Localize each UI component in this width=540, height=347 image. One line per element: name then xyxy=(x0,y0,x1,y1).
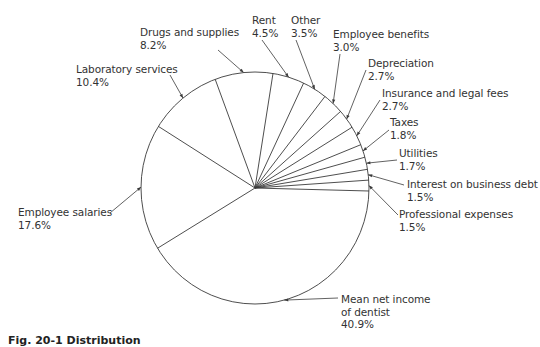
arrowhead-icon xyxy=(180,94,183,98)
leader-line xyxy=(369,186,398,215)
pie-slices xyxy=(141,72,369,304)
label-value: 1.5% xyxy=(407,191,538,204)
arrowhead-icon xyxy=(284,298,288,301)
label-interest-on-business-debt: Interest on business debt 1.5% xyxy=(407,178,538,203)
leader-line xyxy=(363,130,389,151)
label-name: Drugs and supplies xyxy=(140,26,239,39)
slice-divider xyxy=(255,188,369,191)
label-value: 1.7% xyxy=(399,160,438,173)
label-value: 4.5% xyxy=(252,27,278,40)
label-value: 1.5% xyxy=(399,221,513,234)
slice-divider xyxy=(158,188,255,248)
slice-divider xyxy=(255,111,341,188)
label-other: Other 3.5% xyxy=(291,14,320,39)
label-value: 17.6% xyxy=(18,219,112,232)
leader-line xyxy=(366,160,397,163)
label-name: Laboratory services xyxy=(76,63,178,76)
label-value: 2.7% xyxy=(368,70,434,83)
label-utilities: Utilities 1.7% xyxy=(399,147,438,172)
label-name: Depreciation xyxy=(368,57,434,70)
label-mean-net-income: Mean net income of dentist 40.9% xyxy=(341,293,430,331)
label-rent: Rent 4.5% xyxy=(252,14,278,39)
figure-caption: Fig. 20-1 Distribution xyxy=(8,334,141,347)
leader-line xyxy=(110,187,141,213)
label-value: 1.8% xyxy=(390,129,418,142)
label-value: 3.5% xyxy=(291,27,320,40)
label-depreciation: Depreciation 2.7% xyxy=(368,57,434,82)
label-name: Utilities xyxy=(399,147,438,160)
slice-divider xyxy=(158,126,255,188)
label-value: 40.9% xyxy=(341,318,430,331)
leader-line xyxy=(333,54,340,104)
slice-divider xyxy=(255,96,325,188)
label-drugs-and-supplies: Drugs and supplies 8.2% xyxy=(140,26,239,51)
label-insurance-and-legal-fees: Insurance and legal fees 2.7% xyxy=(382,87,508,112)
label-value: 10.4% xyxy=(76,76,178,89)
label-value: 3.0% xyxy=(333,41,429,54)
label-name: Employee salaries xyxy=(18,206,112,219)
leader-line xyxy=(368,175,404,185)
label-name: Taxes xyxy=(390,116,418,129)
leader-line xyxy=(296,40,315,89)
label-name: Other xyxy=(291,14,320,27)
leader-line xyxy=(284,298,338,300)
label-name: Employee benefits xyxy=(333,28,429,41)
label-laboratory-services: Laboratory services 10.4% xyxy=(76,63,178,88)
label-employee-salaries: Employee salaries 17.6% xyxy=(18,206,112,231)
label-taxes: Taxes 1.8% xyxy=(390,116,418,141)
leader-line xyxy=(218,50,244,73)
label-value: 8.2% xyxy=(140,39,239,52)
label-name: Rent xyxy=(252,14,278,27)
label-name-2: of dentist xyxy=(341,306,430,319)
leader-line xyxy=(357,100,380,136)
leader-line xyxy=(347,70,366,119)
label-name: Insurance and legal fees xyxy=(382,87,508,100)
arrowhead-icon xyxy=(357,132,361,136)
slice-divider xyxy=(215,79,255,188)
label-name: Interest on business debt xyxy=(407,178,538,191)
leader-line xyxy=(262,40,289,77)
label-name: Mean net income xyxy=(341,293,430,306)
slice-divider xyxy=(255,73,273,188)
label-employee-benefits: Employee benefits 3.0% xyxy=(333,28,429,53)
label-name: Professional expenses xyxy=(399,208,513,221)
label-value: 2.7% xyxy=(382,100,508,113)
label-professional-expenses: Professional expenses 1.5% xyxy=(399,208,513,233)
arrowhead-icon xyxy=(347,115,350,119)
